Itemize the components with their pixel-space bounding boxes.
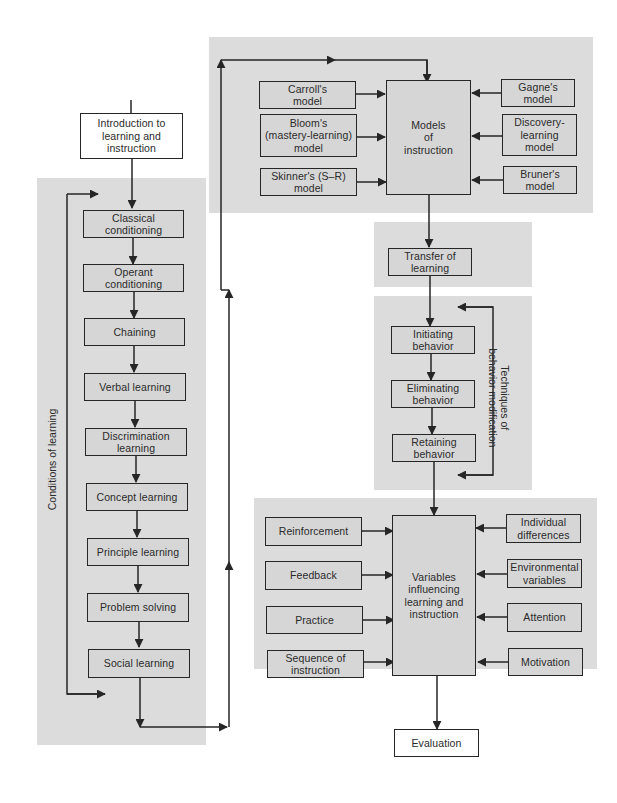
sequence-of-instruction-node: Sequence of instruction bbox=[267, 650, 364, 678]
step-classical-conditioning: Classical conditioning bbox=[83, 210, 184, 238]
gagnes-model-node: Gagne's model bbox=[501, 79, 575, 107]
variables-center-node: Variables influencing learning and instr… bbox=[392, 515, 476, 676]
initiating-behavior-node: Initiating behavior bbox=[391, 326, 475, 354]
feedback-node: Feedback bbox=[265, 561, 362, 590]
step-concept-learning: Concept learning bbox=[86, 483, 188, 511]
attention-node: Attention bbox=[507, 603, 582, 632]
eliminating-behavior-node: Eliminating behavior bbox=[391, 380, 475, 408]
step-problem-solving: Problem solving bbox=[87, 593, 189, 622]
blooms-model-node: Bloom's (mastery-learning) model bbox=[260, 114, 357, 157]
step-discrimination-learning: Discrimination learning bbox=[85, 428, 187, 456]
step-verbal-learning: Verbal learning bbox=[84, 373, 186, 401]
behavior-side-label: Techniques of behavior modification bbox=[486, 338, 524, 458]
step-principle-learning: Principle learning bbox=[87, 538, 189, 566]
transfer-node: Transfer of learning bbox=[388, 248, 472, 276]
retaining-behavior-node: Retaining behavior bbox=[392, 434, 476, 462]
discovery-learning-model-node: Discovery- learning model bbox=[502, 114, 577, 156]
carrolls-model-node: Carroll's model bbox=[259, 81, 356, 109]
intro-label: Introduction to learning and instruction bbox=[97, 117, 165, 155]
individual-differences-node: Individual differences bbox=[506, 514, 581, 543]
environmental-variables-node: Environmental variables bbox=[507, 559, 582, 588]
step-chaining: Chaining bbox=[84, 318, 185, 346]
conditions-side-label: Conditions of learning bbox=[33, 400, 58, 520]
skinners-model-node: Skinner's (S–R) model bbox=[260, 168, 357, 196]
practice-node: Practice bbox=[266, 606, 363, 634]
evaluation-node: Evaluation bbox=[394, 729, 479, 757]
bruners-model-node: Bruner's model bbox=[503, 166, 577, 194]
step-operant-conditioning: Operant conditioning bbox=[83, 264, 184, 292]
motivation-node: Motivation bbox=[508, 648, 583, 676]
step-social-learning: Social learning bbox=[88, 649, 190, 678]
intro-node: Introduction to learning and instruction bbox=[80, 113, 183, 159]
reinforcement-node: Reinforcement bbox=[265, 517, 362, 546]
models-center-node: Models of instruction bbox=[386, 80, 471, 195]
